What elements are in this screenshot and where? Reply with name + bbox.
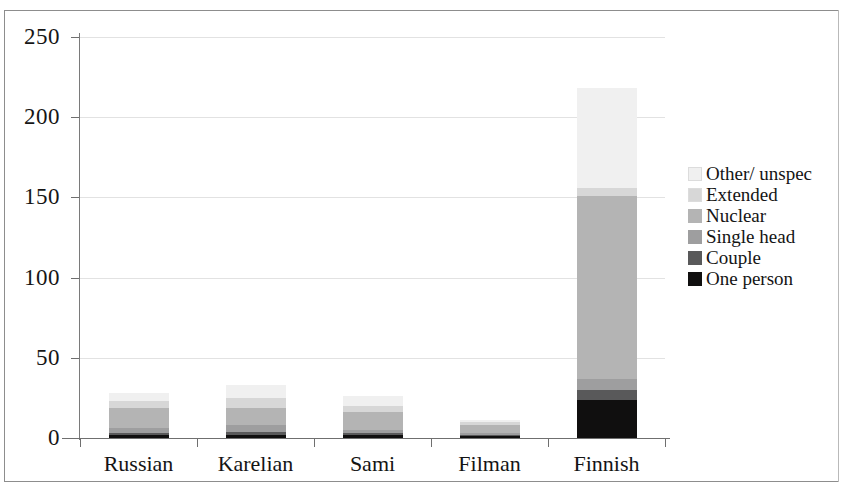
bar-segment — [226, 385, 286, 398]
bar-segment — [226, 425, 286, 431]
legend-label: Nuclear — [706, 205, 766, 226]
bar-segment — [109, 401, 169, 407]
bar-segment — [460, 425, 520, 433]
bar-sami — [343, 396, 403, 438]
x-axis-line — [62, 438, 670, 439]
bar-segment — [577, 390, 637, 400]
y-axis-tick-label: 0 — [0, 426, 60, 449]
x-axis-tick — [665, 438, 666, 447]
y-axis-tick-label: 100 — [0, 266, 60, 289]
bar-segment — [226, 408, 286, 426]
chart-legend: Other/ unspecExtendedNuclearSingle headC… — [688, 163, 838, 289]
legend-item: Single head — [688, 226, 838, 247]
bar-finnish — [577, 88, 637, 438]
legend-label: Extended — [706, 184, 778, 205]
bar-segment — [577, 188, 637, 196]
legend-item: Other/ unspec — [688, 163, 838, 184]
bar-segment — [343, 433, 403, 435]
chart-figure: 050100150200250 RussianKarelianSamiFilma… — [0, 0, 843, 487]
x-axis-tick — [548, 438, 549, 447]
bar-segment — [226, 432, 286, 435]
y-axis-tick-label: 50 — [0, 346, 60, 369]
bar-filman — [460, 420, 520, 438]
x-axis-tick — [431, 438, 432, 447]
bar-segment — [343, 412, 403, 430]
bar-segment — [460, 433, 520, 435]
legend-swatch-icon — [688, 209, 702, 223]
y-axis-tick-label: 250 — [0, 25, 60, 48]
legend-swatch-icon — [688, 188, 702, 202]
bar-segment — [460, 436, 520, 438]
legend-label: Single head — [706, 226, 795, 247]
plot-area — [80, 37, 665, 438]
legend-item: Nuclear — [688, 205, 838, 226]
x-axis-label-karelian: Karelian — [197, 452, 314, 476]
x-axis-tick — [314, 438, 315, 447]
bar-segment — [343, 435, 403, 438]
legend-label: Other/ unspec — [706, 163, 812, 184]
x-axis-label-filman: Filman — [431, 452, 548, 476]
bar-segment — [460, 422, 520, 425]
bar-segment — [343, 396, 403, 406]
legend-label: Couple — [706, 247, 761, 268]
bar-segment — [577, 400, 637, 438]
bar-segment — [343, 406, 403, 412]
bar-segment — [226, 435, 286, 438]
figure-border-right — [838, 10, 839, 482]
bar-segment — [109, 408, 169, 429]
bar-segment — [577, 379, 637, 390]
legend-swatch-icon — [688, 230, 702, 244]
bar-segment — [109, 435, 169, 438]
bar-russian — [109, 393, 169, 438]
legend-swatch-icon — [688, 272, 702, 286]
bar-segment — [577, 196, 637, 379]
bar-segment — [460, 420, 520, 422]
legend-swatch-icon — [688, 167, 702, 181]
bar-segment — [109, 393, 169, 401]
x-axis-label-russian: Russian — [80, 452, 197, 476]
x-axis-tick — [80, 438, 81, 447]
bar-segment — [109, 428, 169, 433]
bar-segment — [109, 433, 169, 435]
legend-label: One person — [706, 268, 793, 289]
y-axis-tick-label: 150 — [0, 185, 60, 208]
bar-karelian — [226, 385, 286, 438]
bar-segment — [460, 435, 520, 437]
legend-item: Extended — [688, 184, 838, 205]
bar-segment — [577, 88, 637, 187]
x-axis-tick — [197, 438, 198, 447]
legend-item: Couple — [688, 247, 838, 268]
legend-swatch-icon — [688, 251, 702, 265]
bar-segment — [226, 398, 286, 408]
x-axis-label-sami: Sami — [314, 452, 431, 476]
bar-segment — [343, 430, 403, 433]
x-axis-label-finnish: Finnish — [548, 452, 665, 476]
legend-item: One person — [688, 268, 838, 289]
y-axis-tick-label: 200 — [0, 105, 60, 128]
